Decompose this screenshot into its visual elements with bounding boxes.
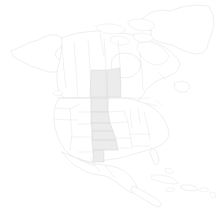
map-canvas: [0, 0, 220, 219]
highlighted-region-south-dakota: [91, 112, 110, 123]
highlighted-region-nebraska: [91, 123, 113, 131]
highlighted-region-texas-panhandle: [93, 150, 104, 162]
highlighted-region-kansas: [92, 131, 116, 140]
highlighted-region-saskatchewan: [90, 70, 107, 97]
highlighted-region-manitoba: [107, 68, 121, 97]
north-america-choropleth-map: [0, 0, 220, 219]
highlighted-region-north-dakota: [91, 98, 108, 112]
highlighted-region-oklahoma: [92, 140, 118, 150]
